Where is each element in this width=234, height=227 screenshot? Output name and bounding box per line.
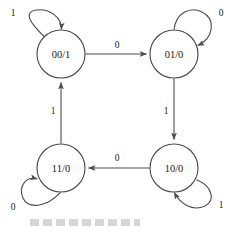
self-loop-label-s11: 0	[11, 202, 16, 212]
state-diagram-canvas: 00/1 01/0 11/0 10/0 0 1 0 1 1 0 0 1	[0, 0, 234, 227]
state-label-s01: 01/0	[165, 49, 184, 60]
edge-label-s00-to-s01: 0	[115, 40, 120, 50]
clipped-caption-fragment	[30, 219, 140, 226]
self-loop-label-s00: 1	[11, 8, 16, 18]
state-label-s11: 11/0	[52, 163, 70, 174]
state-label-s10: 10/0	[165, 163, 184, 174]
self-loop-label-s10: 1	[219, 200, 224, 210]
state-label-s00: 00/1	[52, 49, 71, 60]
state-diagram: 00/1 01/0 11/0 10/0 0 1 0 1 1 0 0 1	[0, 0, 234, 227]
self-loop-label-s01: 0	[219, 8, 224, 18]
edge-label-s10-to-s11: 0	[115, 153, 120, 163]
edge-label-s11-to-s00: 1	[51, 106, 56, 116]
edge-label-s01-to-s10: 1	[164, 106, 169, 116]
